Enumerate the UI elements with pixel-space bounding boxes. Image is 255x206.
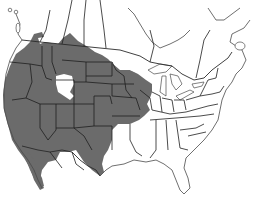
newfoundland-island [235, 42, 245, 50]
lake-huron [170, 74, 182, 90]
coastline-gulf [100, 120, 218, 194]
range-layer [3, 32, 152, 190]
coastline-east [218, 20, 250, 120]
north-america-map [0, 0, 255, 206]
lake-ontario [192, 82, 204, 88]
labrador-coast [208, 8, 240, 20]
lake-michigan [160, 76, 166, 96]
island-1 [8, 8, 12, 12]
range-map [0, 0, 255, 206]
island-2 [14, 10, 18, 14]
vancouver-island [16, 23, 20, 33]
